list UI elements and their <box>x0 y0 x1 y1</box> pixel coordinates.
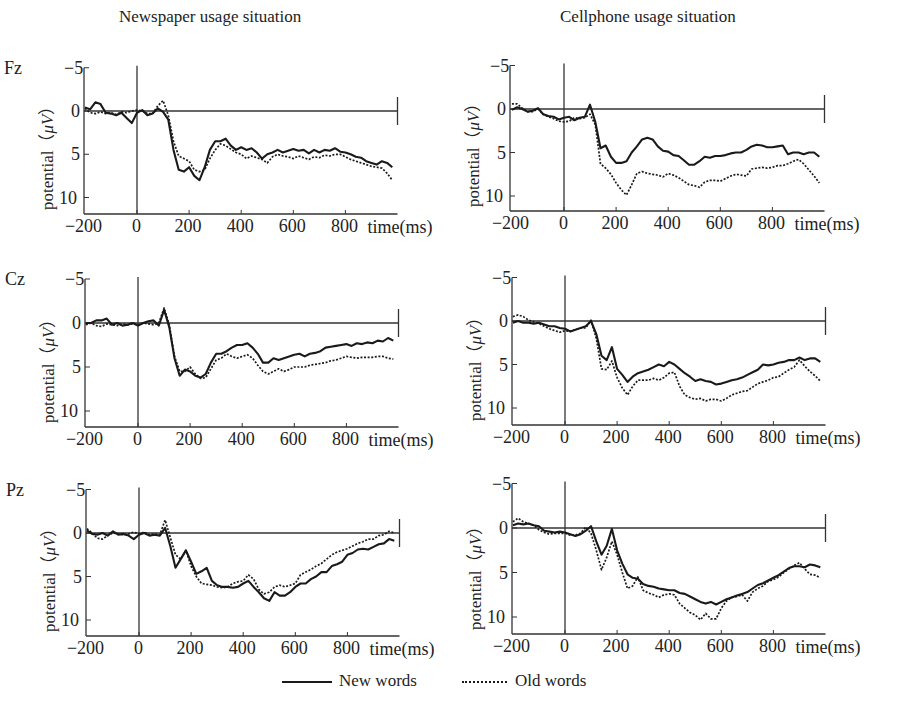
y-tick-label: 5 <box>499 564 508 582</box>
y-axis-label-close: ） <box>466 518 485 535</box>
y-axis-label: potential（μV） <box>467 518 484 630</box>
x-tick-label: 600 <box>707 637 734 655</box>
x-axis-label: time(ms) <box>795 638 860 656</box>
x-tick-label: 0 <box>560 637 569 655</box>
x-tick-label: 200 <box>603 637 630 655</box>
y-tick-label: 10 <box>487 608 505 626</box>
x-tick-label: 800 <box>759 637 786 655</box>
y-tick-label: −5 <box>492 475 511 493</box>
new-words-line <box>513 524 820 605</box>
legend-old-label: Old words <box>515 671 586 691</box>
legend-new-swatch <box>282 681 332 683</box>
x-tick-label: −200 <box>493 637 530 655</box>
legend-old-swatch <box>462 681 507 683</box>
erp-plot <box>0 0 903 718</box>
y-tick-label: 0 <box>499 519 508 537</box>
legend-new-label: New words <box>339 671 417 691</box>
x-tick-label: 400 <box>655 637 682 655</box>
old-words-line <box>513 518 820 620</box>
y-axis-label-text: potential（ <box>466 554 485 630</box>
y-axis-label-unit: μV <box>466 535 485 554</box>
